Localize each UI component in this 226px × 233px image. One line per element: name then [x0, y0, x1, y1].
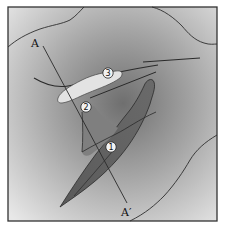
svg-text:3: 3 [105, 69, 110, 78]
marker-1: 1 [106, 142, 116, 152]
map-background [8, 7, 217, 221]
marker-3: 3 [103, 68, 113, 78]
marker-2: 2 [81, 102, 91, 112]
svg-text:1: 1 [108, 143, 113, 152]
label-a-prime: A′ [120, 206, 132, 219]
svg-text:2: 2 [83, 103, 88, 112]
label-a: A [30, 37, 40, 50]
diagram: A A′ 3 2 1 [0, 0, 226, 233]
